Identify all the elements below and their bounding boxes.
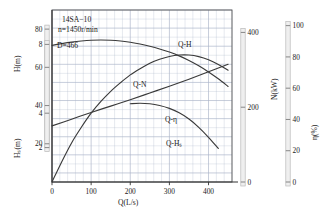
curve-label-q-hs: Q‑Hₛ bbox=[166, 139, 183, 148]
tick-label-h-60: 60 bbox=[35, 63, 43, 72]
tick-label-eta-100: 100 bbox=[293, 21, 304, 30]
tick-label-eta-80: 80 bbox=[293, 53, 301, 62]
tick-label-n-400: 400 bbox=[248, 28, 259, 37]
tick-label-eta-40: 40 bbox=[293, 115, 301, 124]
tick-label-n-200: 200 bbox=[248, 103, 259, 112]
tick-label-hs-2: 2 bbox=[39, 143, 43, 152]
tick-label-hs-8: 8 bbox=[39, 40, 43, 49]
chart-title-line-1: 14SA−10 bbox=[62, 15, 91, 24]
tick-label-q-200: 200 bbox=[125, 187, 136, 196]
tick-label-eta-60: 60 bbox=[293, 84, 301, 93]
axis-title-q: Q(L/s) bbox=[118, 198, 139, 207]
tick-label-q-100: 100 bbox=[86, 187, 97, 196]
tick-label-h-80: 80 bbox=[35, 25, 43, 34]
tick-label-eta-20: 20 bbox=[293, 146, 301, 155]
impeller-diameter-note: D=466 bbox=[57, 41, 78, 50]
pump-performance-chart: 2040608024802004000204060801000100200300… bbox=[0, 0, 324, 218]
tick-label-q-400: 400 bbox=[203, 187, 214, 196]
tick-label-n-0: 0 bbox=[248, 178, 252, 187]
chart-canvas: 2040608024802004000204060801000100200300… bbox=[0, 0, 324, 218]
curve-label-q-n: Q‑N bbox=[133, 80, 147, 89]
chart-title-line-2: n=1450r/min bbox=[58, 25, 98, 34]
tick-label-q-300: 300 bbox=[164, 187, 175, 196]
tick-label-eta-0: 0 bbox=[293, 178, 297, 187]
axis-title-eta: η(%) bbox=[310, 124, 319, 140]
tick-label-hs-4: 4 bbox=[39, 109, 43, 118]
tick-label-q-0: 0 bbox=[50, 187, 54, 196]
scale-bar-eta bbox=[286, 22, 290, 186]
curve-label-q-h: Q‑H bbox=[178, 40, 192, 49]
axis-title-h: H(m) bbox=[13, 55, 22, 72]
scale-bar-hs bbox=[45, 40, 49, 151]
axis-title-hs: Hₛ(m) bbox=[13, 138, 22, 158]
axis-title-n: N(kW) bbox=[270, 78, 279, 100]
curve-label-q-eta: Q‑η bbox=[165, 115, 177, 124]
